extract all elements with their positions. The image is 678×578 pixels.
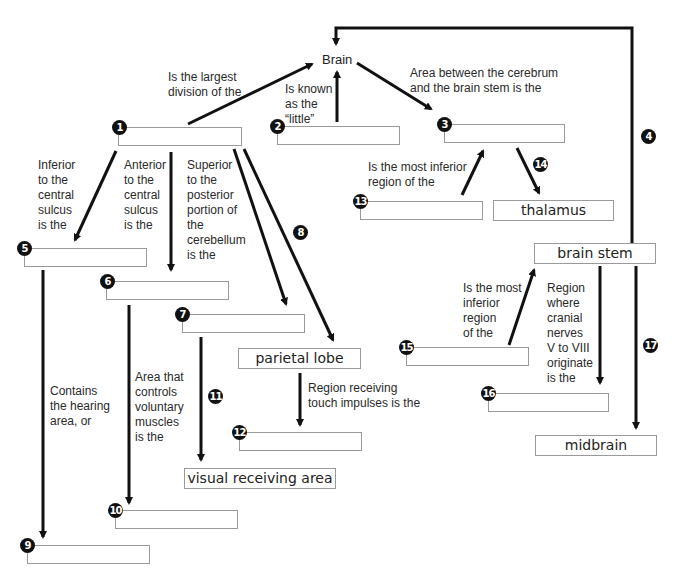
answer-box-10[interactable]: [115, 510, 238, 529]
term-thalamus: thalamus: [493, 200, 614, 221]
number-badge-13: 13: [353, 194, 368, 209]
answer-box-16[interactable]: [488, 393, 609, 412]
brain-title: Brain: [322, 52, 352, 67]
label-hearing-area: Contains the hearing area, or: [50, 384, 110, 429]
term-visual-receiving-area: visual receiving area: [184, 468, 336, 489]
answer-box-6[interactable]: [106, 281, 229, 300]
number-badge-2: 2: [270, 119, 285, 134]
answer-box-5[interactable]: [24, 248, 147, 267]
label-most-inferior-13: Is the most inferior region of the: [368, 160, 467, 190]
number-badge-8: 8: [293, 225, 308, 240]
number-badge-3: 3: [437, 117, 452, 132]
label-most-inferior-15: Is the most inferior region of the: [463, 281, 522, 341]
label-area-between: Area between the cerebrum and the brain …: [410, 66, 558, 96]
arrow-1-to-parietal: [244, 149, 333, 340]
number-badge-12: 12: [232, 425, 247, 440]
label-inferior-central: Inferior to the central sulcus is the: [38, 158, 75, 233]
answer-box-13[interactable]: [360, 201, 483, 220]
answer-box-3[interactable]: [444, 124, 565, 143]
answer-box-2[interactable]: [277, 126, 400, 145]
answer-box-15[interactable]: [406, 347, 529, 366]
number-badge-7: 7: [175, 307, 190, 322]
number-badge-10: 10: [108, 503, 123, 518]
answer-box-9[interactable]: [27, 545, 150, 564]
label-superior-posterior: Superior to the posterior portion of the…: [187, 158, 246, 263]
label-voluntary-muscles: Area that controls voluntary muscles is …: [135, 370, 184, 445]
number-badge-15: 15: [399, 340, 414, 355]
number-badge-17: 17: [643, 338, 658, 353]
label-anterior-central: Anterior to the central sulcus is the: [124, 158, 166, 233]
number-badge-6: 6: [100, 274, 115, 289]
answer-box-1[interactable]: [118, 127, 242, 146]
label-largest-division: Is the largest division of the: [168, 70, 241, 100]
answer-box-12[interactable]: [239, 432, 362, 451]
number-badge-1: 1: [112, 120, 127, 135]
number-badge-4: 4: [641, 129, 656, 144]
number-badge-14: 14: [533, 157, 548, 172]
term-brain-stem: brain stem: [534, 243, 656, 264]
number-badge-9: 9: [20, 538, 35, 553]
term-midbrain: midbrain: [535, 435, 657, 456]
arrow-1-to-5: [75, 151, 116, 240]
number-badge-5: 5: [17, 241, 32, 256]
number-badge-11: 11: [208, 389, 223, 404]
number-badge-16: 16: [481, 386, 496, 401]
answer-box-7[interactable]: [182, 314, 305, 333]
term-parietal-lobe: parietal lobe: [238, 348, 361, 369]
label-known-as-little: Is known as the “little”: [285, 82, 332, 127]
label-cranial-nerves: Region where cranial nerves V to VIII or…: [547, 281, 593, 386]
label-touch-impulses: Region receiving touch impulses is the: [308, 381, 420, 411]
